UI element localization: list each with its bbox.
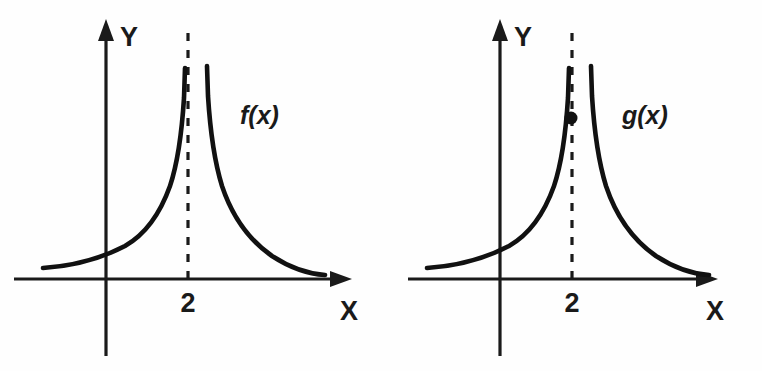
x-axis-label-left: X (340, 296, 358, 326)
y-axis-arrow-icon-left (98, 19, 114, 41)
curve-left-branch-gx (427, 68, 569, 268)
defined-point-dot-gx (565, 112, 578, 125)
curve-right-branch-fx (207, 66, 325, 275)
two-panel-graph-figure: Y X 2 f(x) Y X 2 (0, 0, 762, 371)
y-axis-arrow-icon-right (492, 19, 508, 41)
panel-right-gx: Y X 2 g(x) (408, 19, 724, 356)
panel-left-fx: Y X 2 f(x) (14, 19, 358, 356)
function-label-gx: g(x) (621, 101, 668, 129)
x-axis-label-right: X (706, 296, 724, 326)
curve-right-branch-gx (591, 66, 709, 275)
y-axis-label-left: Y (120, 22, 138, 52)
x-tick-label-2-left: 2 (180, 288, 195, 318)
x-tick-label-2-right: 2 (564, 288, 579, 318)
curve-left-branch-fx (43, 68, 185, 268)
function-label-fx: f(x) (240, 101, 279, 129)
y-axis-label-right: Y (514, 22, 532, 52)
figure-canvas: Y X 2 f(x) Y X 2 (0, 0, 762, 371)
x-axis-arrow-icon-left (330, 271, 352, 287)
